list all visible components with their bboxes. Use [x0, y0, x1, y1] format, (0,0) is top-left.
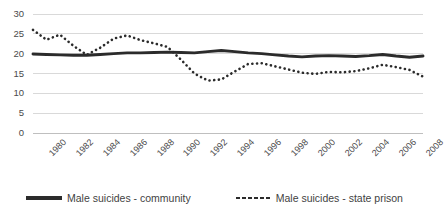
legend-item-label: Male suicides - community	[67, 192, 191, 204]
chart-legend: Male suicides - community Male suicides …	[0, 186, 429, 210]
y-tick-label: 5	[2, 108, 24, 118]
solid-line-swatch	[26, 196, 62, 200]
dotted-line-swatch	[235, 196, 271, 200]
legend-item-state-prison: Male suicides - state prison	[235, 192, 403, 204]
y-tick-label: 10	[2, 88, 24, 98]
y-tick-label: 30	[2, 9, 24, 19]
y-tick-label: 25	[2, 29, 24, 39]
gridlines	[33, 14, 423, 133]
y-tick-label: 20	[2, 49, 24, 59]
legend-item-community: Male suicides - community	[26, 192, 191, 204]
legend-item-label: Male suicides - state prison	[276, 192, 403, 204]
y-tick-label: 15	[2, 69, 24, 79]
y-tick-label: 0	[2, 128, 24, 138]
